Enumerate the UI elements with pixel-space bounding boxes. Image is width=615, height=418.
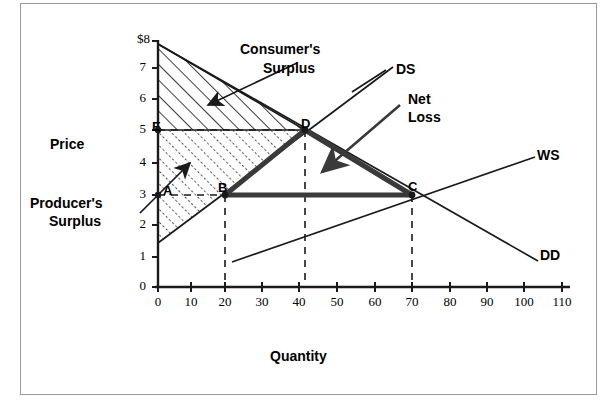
y-tick-8: $8 xyxy=(118,32,150,47)
point-label-D: D xyxy=(301,117,310,132)
y-tick-2: 2 xyxy=(118,217,146,232)
x-tick-90: 90 xyxy=(472,295,502,310)
quantity-axis-title: Quantity xyxy=(270,349,327,365)
figure-root: $8 7 6 5 4 3 2 1 0 0 10 20 30 40 50 60 7… xyxy=(0,0,615,418)
dd-curve-label: DD xyxy=(540,248,560,264)
net-loss-label-line2: Loss xyxy=(408,110,441,126)
x-tick-110: 110 xyxy=(547,295,577,310)
point-label-C: C xyxy=(408,180,417,195)
ws-curve-label: WS xyxy=(537,148,560,164)
ds-curve-label: DS xyxy=(396,62,415,78)
x-tick-70: 70 xyxy=(397,295,427,310)
point-label-A: A xyxy=(163,184,172,199)
point-label-B: B xyxy=(218,181,227,196)
x-tick-100: 100 xyxy=(509,295,539,310)
consumer-surplus-label-line1: Consumer's xyxy=(240,42,320,58)
x-tick-10: 10 xyxy=(176,295,206,310)
x-tick-50: 50 xyxy=(322,295,352,310)
y-tick-1: 1 xyxy=(118,249,146,264)
y-tick-5: 5 xyxy=(118,122,146,137)
y-tick-6: 6 xyxy=(118,91,146,106)
producer-surplus-label-line2: Surplus xyxy=(49,214,101,230)
x-tick-40: 40 xyxy=(284,295,314,310)
price-axis-title: Price xyxy=(50,137,84,153)
point-label-E: E xyxy=(152,120,161,135)
x-tick-0: 0 xyxy=(143,295,173,310)
ds-leader xyxy=(352,70,386,92)
y-tick-0: 0 xyxy=(118,279,146,294)
net-loss-label-line1: Net xyxy=(408,92,431,108)
x-tick-80: 80 xyxy=(435,295,465,310)
consumer-surplus-label-line2: Surplus xyxy=(263,61,315,77)
producer-surplus-label-line1: Producer's xyxy=(30,196,103,212)
y-tick-7: 7 xyxy=(118,60,146,75)
x-tick-20: 20 xyxy=(210,295,240,310)
x-tick-30: 30 xyxy=(247,295,277,310)
y-tick-4: 4 xyxy=(118,155,146,170)
y-tick-3: 3 xyxy=(118,187,146,202)
x-tick-60: 60 xyxy=(360,295,390,310)
